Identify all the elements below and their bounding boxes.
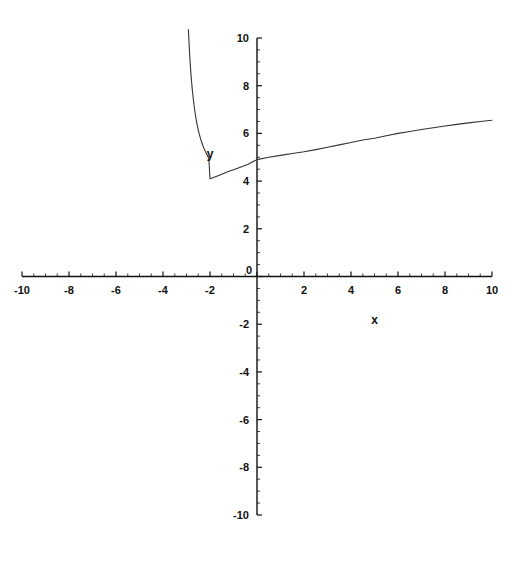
graph-canvas: -10-8-6-4-20246810 -10-8-6-4-2246810 x y xyxy=(0,0,529,563)
x-tick-label: -10 xyxy=(14,284,30,296)
x-tick-label: 2 xyxy=(301,284,307,296)
x-tick-label: -4 xyxy=(158,284,169,296)
x-tick-label: 6 xyxy=(395,284,401,296)
x-tick-label: -2 xyxy=(205,284,215,296)
y-tick-label: 2 xyxy=(243,223,249,235)
y-tick-label: 6 xyxy=(243,127,249,139)
x-axis-label: x xyxy=(371,313,378,327)
y-axis-label: y xyxy=(207,147,214,161)
x-tick-label: 10 xyxy=(486,284,498,296)
y-tick-label: -2 xyxy=(239,318,249,330)
y-tick-label: -8 xyxy=(239,461,249,473)
x-axis-tick-labels: -10-8-6-4-20246810 xyxy=(14,264,498,296)
cartesian-plot: -10-8-6-4-20246810 -10-8-6-4-2246810 x y xyxy=(0,0,529,563)
x-tick-label: -8 xyxy=(64,284,74,296)
y-tick-label: 8 xyxy=(243,80,249,92)
y-tick-label: 10 xyxy=(237,32,249,44)
y-axis-ticks xyxy=(257,38,262,515)
x-tick-label: 4 xyxy=(348,284,355,296)
x-tick-label: -6 xyxy=(111,284,121,296)
y-tick-label: -10 xyxy=(233,509,249,521)
x-tick-label: 8 xyxy=(442,284,448,296)
x-axis-ticks xyxy=(22,272,492,277)
y-tick-label: 4 xyxy=(243,175,250,187)
y-tick-label: -6 xyxy=(239,414,249,426)
data-curve xyxy=(188,30,492,179)
x-tick-label: 0 xyxy=(246,264,252,276)
y-tick-label: -4 xyxy=(239,366,250,378)
